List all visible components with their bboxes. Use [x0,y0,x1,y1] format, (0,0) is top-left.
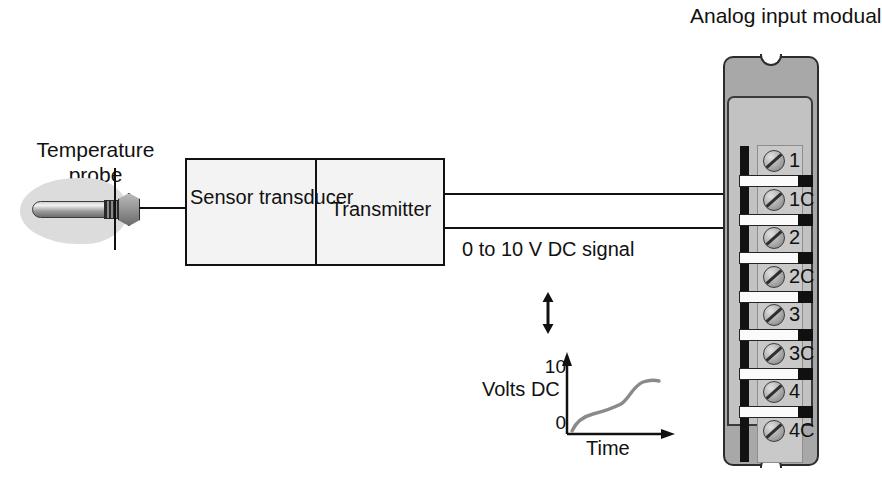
signal-wire-to-terminal-2 [445,193,753,195]
signal-label-line1: 0 to 10 V [462,238,542,260]
analog-input-module[interactable]: 11C22C33C44C [723,56,819,466]
terminal-screw-3c[interactable] [763,343,785,365]
terminal-screw-4[interactable] [763,381,785,403]
terminal-screw-1[interactable] [763,150,785,172]
terminal-strip-1 [739,175,813,187]
module-title: Analog input modual [690,4,844,29]
probe-hex-nut-icon [118,193,140,226]
terminal-strip-5 [739,329,813,341]
sensor-label-line1: Sensor [190,186,253,208]
signal-annotation-label: 0 to 10 V DC signal [462,238,634,262]
signal-label-line2: DC signal [548,238,635,260]
probe-lead-wire [139,207,186,209]
terminal-label-4c: 4C [789,419,815,442]
terminal-label-1c: 1C [789,188,815,211]
module-title-line1: Analog input [690,4,807,27]
terminal-strip-3 [739,252,813,264]
sensor-transducer-label: Sensor transducer [190,186,316,210]
terminal-screw-1c[interactable] [763,189,785,211]
terminal-screw-2c[interactable] [763,266,785,288]
double-arrow-vertical-icon [540,292,556,334]
volts-vs-time-chart [555,352,675,442]
terminal-strip-6 [739,368,813,380]
terminal-strip-7 [739,406,813,418]
terminal-screw-2[interactable] [763,227,785,249]
terminal-label-2: 2 [789,226,800,249]
terminal-label-3c: 3C [789,342,815,365]
probe-label-line1: Temperature [37,138,155,161]
transmitter-label: Transmitter [319,198,443,222]
terminal-label-3: 3 [789,303,800,326]
box-divider [315,158,317,266]
mounting-wall-line [114,168,116,250]
terminal-strip-4 [739,291,813,303]
terminal-screw-3[interactable] [763,304,785,326]
volts-line1: Volts [482,378,525,400]
terminal-label-4: 4 [789,380,800,403]
module-title-line2: modual [813,4,882,27]
signal-wire-to-terminal-2c [445,227,753,229]
terminal-strip-2 [739,214,813,226]
terminal-label-1: 1 [789,149,800,172]
terminal-screw-4c[interactable] [763,420,785,442]
terminal-label-2c: 2C [789,265,815,288]
module-faceplate: 11C22C33C44C [727,96,813,426]
graph-y-axis-title: Volts DC [482,378,554,402]
